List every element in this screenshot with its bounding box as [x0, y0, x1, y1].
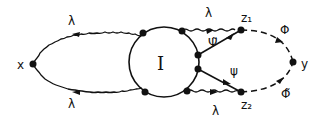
- label-x: x: [17, 58, 24, 72]
- label-lambda-upper-left: λ: [68, 14, 75, 28]
- feynman-diagram: I x y z₁ z₂ λ λ λ λ Ψ̃ ψ Φ Φ̃: [0, 0, 323, 125]
- arrow-fermion-upper: [226, 33, 234, 40]
- arrow-dashed-upper: [275, 37, 283, 43]
- vertex-blob-upper-left: [140, 30, 147, 37]
- vertex-blob-lower-right: [184, 88, 191, 95]
- label-lambda-lower-right: λ: [212, 104, 219, 118]
- fermion-line-upper: [198, 30, 241, 55]
- vertex-z2: [238, 89, 245, 96]
- label-y: y: [301, 57, 308, 71]
- label-phi-tilde: Φ̃: [281, 87, 290, 101]
- arrow-fermion-lower: [223, 79, 231, 85]
- label-psi-tilde: Ψ̃: [208, 36, 217, 50]
- vertex-blob-lower-left: [142, 89, 149, 96]
- vertex-z1: [238, 27, 245, 34]
- label-z1: z₁: [241, 11, 252, 25]
- arrow-upper-left: [72, 32, 80, 37]
- vertex-x: [30, 61, 37, 68]
- vertex-y: [290, 59, 297, 66]
- blob-label: I: [157, 53, 164, 74]
- wavy-line-lower-left: [33, 64, 142, 93]
- wavy-line-upper-left: [33, 32, 141, 64]
- label-psi: ψ: [230, 64, 238, 78]
- vertex-blob-right-lower: [195, 66, 202, 73]
- label-phi: Φ: [280, 23, 289, 37]
- label-lambda-lower-left: λ: [68, 97, 75, 111]
- label-lambda-upper-right: λ: [205, 6, 212, 20]
- vertex-blob-right-upper: [195, 52, 202, 59]
- label-z2: z₂: [241, 98, 252, 112]
- arrow-dashed-lower: [276, 77, 284, 84]
- vertex-blob-upper-right: [179, 28, 186, 35]
